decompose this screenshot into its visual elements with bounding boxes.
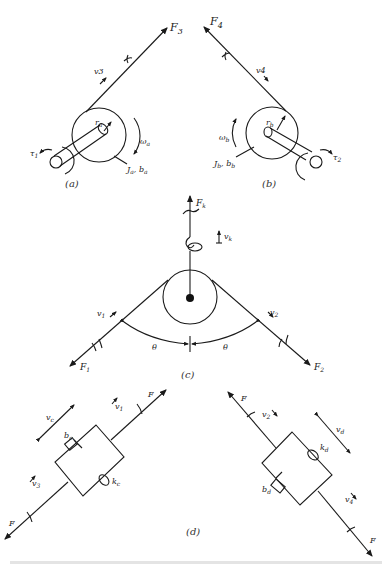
panel-a: F3 v3 τ1 ra ωa Ja, ba (a) bbox=[30, 21, 183, 189]
caption-a: (a) bbox=[65, 178, 79, 189]
label-v4: v4 bbox=[256, 66, 266, 75]
damper-rod bbox=[276, 472, 282, 478]
label-v3-d: v3 bbox=[32, 479, 41, 489]
cable-top-left bbox=[111, 390, 166, 440]
mechanical-system-diagram: F3 v3 τ1 ra ωa Ja, ba (a) F4 v4 τ2 rb bbox=[0, 0, 392, 568]
label-vc: vc bbox=[46, 413, 55, 423]
panel-c: Fk vk v1 F1 v2 F2 θ θ (c) bbox=[70, 196, 324, 380]
cable-bottom-left bbox=[5, 482, 68, 539]
label-f-bottom-r: F bbox=[369, 536, 376, 545]
arrow-v2d bbox=[272, 410, 277, 416]
break-mark bbox=[137, 404, 142, 414]
torque-arrow-a bbox=[40, 149, 52, 153]
label-bc: bc bbox=[64, 431, 73, 441]
label-f-top-r: F bbox=[240, 394, 247, 403]
label-tau2: τ2 bbox=[333, 153, 341, 163]
label-f3: F3 bbox=[169, 21, 183, 36]
angle-arc-right bbox=[192, 322, 256, 344]
label-theta-right: θ bbox=[223, 343, 228, 352]
spring-k bbox=[186, 237, 194, 248]
break-mark bbox=[92, 339, 102, 351]
break-mark bbox=[222, 52, 230, 60]
shaft-end-a2 bbox=[50, 156, 62, 168]
break-mark bbox=[183, 209, 199, 214]
arrow-v4 bbox=[264, 76, 268, 81]
cable-top-right bbox=[228, 392, 276, 448]
label-f1: F1 bbox=[79, 362, 90, 373]
panel-b: F4 v4 τ2 rb ωb Jb, bb (b) bbox=[204, 15, 341, 189]
break-mark bbox=[247, 412, 255, 417]
label-f2: F2 bbox=[313, 362, 324, 373]
label-ra: ra bbox=[95, 118, 103, 128]
shaft-end-b bbox=[264, 127, 272, 137]
label-vk: vk bbox=[224, 232, 233, 242]
cable-f4 bbox=[204, 27, 286, 111]
label-ja-ba: Ja, ba bbox=[125, 165, 148, 175]
break-mark bbox=[124, 55, 132, 63]
label-kc: kc bbox=[112, 477, 121, 487]
shaft-b bbox=[266, 128, 312, 160]
caption-c: (c) bbox=[181, 369, 195, 380]
label-jb-bb: Jb, bb bbox=[212, 159, 235, 169]
faint-footer-caption bbox=[10, 561, 382, 564]
label-v2-d: v2 bbox=[262, 410, 271, 420]
label-kd: kd bbox=[320, 443, 329, 453]
label-bd: bd bbox=[262, 485, 271, 495]
label-v2: v2 bbox=[270, 308, 279, 318]
shaft-end-b2 bbox=[310, 156, 322, 168]
label-fk: Fk bbox=[195, 198, 206, 209]
omega-arrow-b bbox=[233, 119, 236, 147]
label-tau1: τ1 bbox=[30, 149, 38, 159]
arrow-v3 bbox=[100, 78, 106, 84]
label-theta-left: θ bbox=[152, 343, 157, 352]
arrow-v1 bbox=[110, 312, 116, 317]
radius-arrow-b bbox=[277, 116, 285, 130]
leader-a bbox=[114, 156, 127, 164]
wheel-a bbox=[72, 108, 126, 162]
label-v1-d: v1 bbox=[115, 402, 123, 412]
label-f4: F4 bbox=[209, 15, 223, 30]
label-omega-a: ωa bbox=[140, 137, 151, 147]
cable-f1 bbox=[70, 280, 168, 366]
label-v3: v3 bbox=[94, 67, 104, 76]
panel-d-left: F F bc kc vc v1 v3 bbox=[5, 390, 166, 539]
label-omega-b: ωb bbox=[219, 133, 230, 143]
label-v1: v1 bbox=[97, 309, 105, 319]
angle-arc-left bbox=[124, 322, 188, 344]
caption-d: (d) bbox=[186, 526, 200, 537]
cable-f2 bbox=[212, 280, 310, 365]
panel-d-right: F F kd bd vd v2 v4 bbox=[228, 392, 376, 556]
label-f-top: F bbox=[147, 390, 154, 399]
label-f-bottom: F bbox=[8, 519, 15, 528]
omega-arrow-a bbox=[134, 118, 140, 154]
caption-b: (b) bbox=[262, 178, 276, 189]
label-rb: rb bbox=[266, 118, 274, 128]
pulley-axle bbox=[186, 294, 194, 302]
spring-kc bbox=[97, 473, 111, 487]
torque-arrow-b bbox=[320, 150, 332, 154]
label-v4-d: v4 bbox=[345, 495, 354, 505]
label-vd: vd bbox=[336, 425, 345, 435]
leader-b bbox=[236, 147, 254, 157]
spring-coil bbox=[188, 243, 202, 251]
